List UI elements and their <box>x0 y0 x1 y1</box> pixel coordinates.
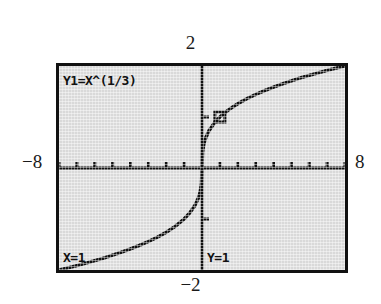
plot-surface <box>59 66 345 270</box>
y-min-range-label: −2 <box>0 275 381 294</box>
calculator-screen: Y1=X^(1/3) X=1 Y=1 <box>56 63 348 273</box>
y-max-range-label: 2 <box>0 33 381 52</box>
graph-svg <box>59 66 345 270</box>
trace-x-value-label: X=1 <box>63 251 85 264</box>
trace-y-value-label: Y=1 <box>207 251 229 264</box>
function-expression-label: Y1=X^(1/3) <box>63 74 136 87</box>
x-max-range-label: 8 <box>355 152 365 171</box>
x-min-range-label: −8 <box>22 152 42 171</box>
